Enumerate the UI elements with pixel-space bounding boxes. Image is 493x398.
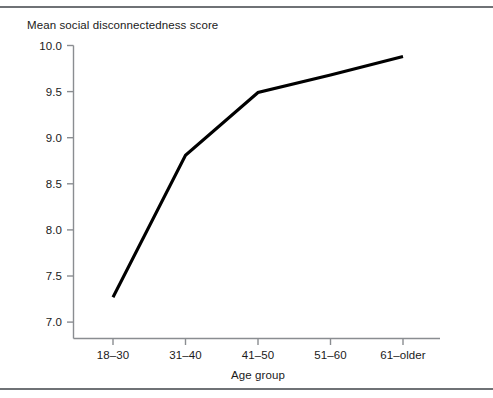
line-chart: 10.0 9.5 9.0 8.5 8.0 7.5 7.0 18–30 31–40… [0, 0, 493, 398]
x-tick-label-61-older: 61–older [380, 349, 426, 361]
x-axis-title: Age group [231, 369, 285, 381]
plot-area-background [73, 45, 440, 338]
y-tick-label-7-0: 7.0 [46, 316, 62, 328]
x-axis-ticks [113, 339, 403, 346]
y-axis-tick-labels: 10.0 9.5 9.0 8.5 8.0 7.5 7.0 [39, 40, 62, 329]
y-tick-label-9-5: 9.5 [46, 86, 62, 98]
figure-container: Mean social disconnectedness score 10.0 … [0, 0, 493, 398]
y-axis-ticks [67, 46, 74, 323]
x-tick-label-41-50: 41–50 [242, 349, 274, 361]
y-tick-label-8-5: 8.5 [46, 178, 62, 190]
y-tick-label-9-0: 9.0 [46, 132, 62, 144]
x-tick-label-51-60: 51–60 [314, 349, 346, 361]
y-tick-label-10-0: 10.0 [39, 40, 62, 52]
x-tick-label-18-30: 18–30 [97, 349, 129, 361]
x-tick-label-31-40: 31–40 [169, 349, 201, 361]
x-axis-tick-labels: 18–30 31–40 41–50 51–60 61–older [97, 349, 426, 361]
y-tick-label-7-5: 7.5 [46, 270, 62, 282]
y-tick-label-8-0: 8.0 [46, 224, 62, 236]
